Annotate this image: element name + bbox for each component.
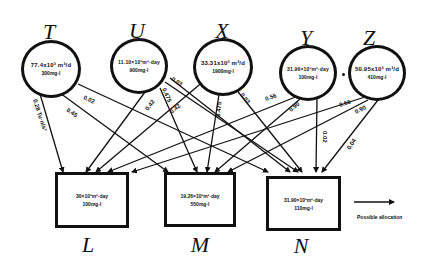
edge-label-Z-L: 0.56: [338, 98, 352, 108]
source-capacity: 31.96×10³m³·day: [287, 65, 329, 73]
source-capacity: 11.10×10³m³·day: [118, 58, 160, 66]
sink-concentration: 550mg·l: [191, 200, 210, 208]
edge-label-U-N-2: 0.42: [169, 102, 182, 115]
source-node-Y: 31.96×10³m³·day 100mg·l: [279, 45, 337, 101]
source-concentration: 100mg·l: [299, 73, 318, 81]
source-node-Z: 50.95x10³ m³/d 410mg·l: [348, 45, 406, 101]
edge-Z-N: [322, 100, 378, 172]
edge-T-L: [40, 94, 63, 172]
source-capacity: 77.4x10³ m³/d: [31, 61, 72, 69]
source-concentration: 300mg·l: [42, 69, 61, 77]
edge-Z-M: [228, 100, 368, 172]
legend-label: Possible allocation: [357, 214, 402, 220]
edge-Y-N: [316, 99, 317, 172]
source-node-T: 77.4x10³ m³/d 300mg·l: [21, 40, 81, 98]
sink-letter-L: L: [73, 234, 103, 256]
edge-Y-M: [215, 99, 300, 172]
source-capacity: 50.95x10³ m³/d: [355, 65, 399, 73]
sink-capacity: 19.26×10³m³·day: [180, 192, 219, 200]
sink-concentration: 100mg·l: [83, 200, 102, 208]
edge-label-U-L: 0.42: [144, 98, 156, 111]
edge-label-Y-M: 0.90: [288, 100, 301, 113]
sink-concentration: 110mg·l: [294, 204, 313, 212]
edge-label-T-M: 0.45: [65, 107, 79, 119]
edge-label-T-N: 0.02: [83, 94, 97, 105]
sink-letter-M: M: [185, 234, 215, 256]
edge-label-X-N: 0.03: [239, 92, 251, 105]
sink-capacity: 30×10³m³·day: [76, 192, 108, 200]
source-node-X: 33.31x10³ m³/d 1900mg·l: [193, 38, 253, 96]
edge-label-U-N: 0.03: [170, 76, 184, 88]
sink-node-L: 30×10³m³·day 100mg·l: [55, 172, 129, 228]
edge-X-L: [96, 80, 205, 172]
edge-label-Y-N: 0.02: [322, 131, 328, 143]
sink-capacity: 31.90×10³m³·day: [284, 196, 323, 204]
source-concentration: 410mg·l: [368, 73, 387, 81]
edge-label-X-M: 0.475: [215, 101, 222, 117]
edge-label-Y-L: 0.56: [264, 92, 278, 102]
source-concentration: 900mg·l: [130, 66, 149, 74]
sink-node-N: 31.90×10³m³·day 110mg·l: [266, 176, 341, 231]
sink-letter-N: N: [286, 235, 316, 257]
source-capacity: 33.31x10³ m³/d: [201, 59, 245, 67]
sink-node-M: 19.26×10³m³·day 550mg·l: [164, 172, 236, 227]
source-concentration: 1900mg·l: [212, 67, 234, 75]
separator-dot: [342, 73, 345, 76]
source-node-U: 11.10×10³m³·day 900mg·l: [110, 38, 168, 94]
